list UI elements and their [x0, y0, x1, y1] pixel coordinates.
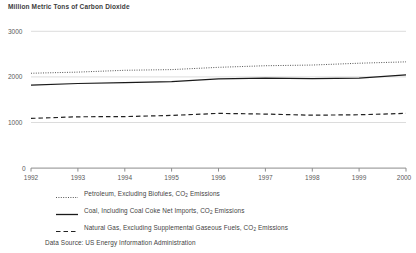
legend-label-petroleum-sub: 2 [185, 193, 188, 198]
xtick-label-1993: 1993 [71, 174, 86, 181]
chart-container: Million Metric Tons of Carbon Dioxide 30… [0, 0, 416, 253]
dashed-line-marker [56, 228, 78, 235]
legend-item-coal: Coal, Including Coal Coke Net Imports, C… [56, 207, 396, 221]
legend-label-petroleum-suffix: Emissions [188, 190, 220, 197]
chart-plot-area: 3000 2000 1000 0 1992 1993 1994 1995 199… [0, 0, 416, 186]
solid-line-marker [56, 211, 78, 218]
x-axis-tick-labels: 1992 1993 1994 1995 1996 1997 1998 1999 … [24, 174, 412, 181]
xtick-label-1996: 1996 [211, 174, 226, 181]
legend-label-coal: Coal, Including Coal Coke Net Imports, C… [84, 207, 396, 216]
data-source-note: Data Source: US Energy Information Admin… [45, 239, 196, 246]
legend-item-petroleum: Petroleum, Excluding Biofules, CO2 Emiss… [56, 190, 396, 204]
xtick-label-1995: 1995 [164, 174, 179, 181]
chart-legend: Petroleum, Excluding Biofules, CO2 Emiss… [56, 190, 396, 241]
ytick-label-0: 0 [22, 165, 26, 172]
series-line-petroleum [31, 62, 406, 73]
legend-label-petroleum-prefix: Petroleum, Excluding Biofules, CO [84, 190, 185, 197]
xtick-label-1999: 1999 [352, 174, 367, 181]
xtick-label-1994: 1994 [118, 174, 133, 181]
series-line-natural-gas [31, 113, 406, 118]
legend-label-coal-prefix: Coal, Including Coal Coke Net Imports, C… [84, 207, 210, 214]
xtick-label-1998: 1998 [305, 174, 320, 181]
y-axis-tick-labels: 3000 2000 1000 0 [8, 28, 26, 172]
legend-label-natural-gas: Natural Gas, Excluding Supplemental Gase… [84, 224, 396, 233]
xtick-label-1997: 1997 [258, 174, 273, 181]
dotted-line-marker [56, 194, 78, 201]
x-axis-ticks [31, 168, 406, 172]
xtick-label-2000: 2000 [397, 174, 412, 181]
legend-label-natural-gas-prefix: Natural Gas, Excluding Supplemental Gase… [84, 224, 253, 231]
legend-item-natural-gas: Natural Gas, Excluding Supplemental Gase… [56, 224, 396, 238]
ytick-label-1000: 1000 [8, 119, 23, 126]
xtick-label-1992: 1992 [24, 174, 39, 181]
gridlines [31, 31, 406, 122]
ytick-label-3000: 3000 [8, 28, 23, 35]
legend-label-coal-sub: 2 [210, 210, 213, 215]
series-line-coal [31, 75, 406, 85]
legend-label-petroleum: Petroleum, Excluding Biofules, CO2 Emiss… [84, 190, 396, 199]
ytick-label-2000: 2000 [8, 73, 23, 80]
legend-label-natural-gas-suffix: Emissions [256, 224, 288, 231]
legend-label-natural-gas-sub: 2 [253, 227, 256, 232]
legend-label-coal-suffix: Emissions [213, 207, 245, 214]
